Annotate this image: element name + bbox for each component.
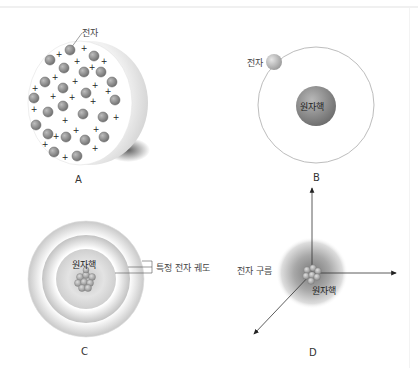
svg-text:+: + [92, 81, 99, 90]
svg-text:+: + [42, 140, 49, 149]
svg-text:+: + [92, 144, 99, 153]
svg-text:+: + [90, 97, 97, 106]
svg-text:+: + [56, 50, 63, 59]
electron [266, 54, 282, 70]
svg-text:+: + [81, 44, 88, 53]
svg-text:+: + [105, 87, 112, 96]
svg-text:+: + [62, 116, 69, 125]
svg-text:+: + [89, 63, 96, 72]
panel-b: 전자 원자핵 B [209, 0, 418, 190]
svg-text:+: + [53, 132, 60, 141]
panel-c: 원자핵 특정 전자 궤도 C [0, 190, 209, 379]
caption-d: D [309, 347, 317, 358]
svg-text:+: + [74, 57, 81, 66]
svg-text:+: + [32, 84, 39, 93]
electron-label-b: 전자 [247, 56, 263, 69]
svg-text:+: + [50, 92, 57, 101]
svg-text:+: + [52, 73, 59, 82]
orbit-label-c: 특정 전자 궤도 [156, 261, 210, 274]
svg-text:+: + [69, 93, 76, 102]
cloud-label-d: 전자 구름 [237, 264, 272, 277]
panel-a: ++ ++ ++ ++ ++ ++ ++ ++ ++ ++ ++ 전자 A [0, 0, 209, 190]
panel-d: 전자 구름 원자핵 D [209, 180, 418, 379]
svg-text:+: + [73, 126, 80, 135]
planetary-model [209, 0, 418, 190]
svg-text:+: + [72, 77, 79, 86]
nucleus-label-b: 원자핵 [300, 100, 324, 113]
bohr-model [0, 190, 209, 379]
svg-text:+: + [31, 105, 38, 114]
nucleus-label-c: 원자핵 [72, 258, 96, 271]
caption-a: A [75, 174, 82, 185]
svg-text:+: + [93, 125, 100, 134]
plum-pudding-model: ++ ++ ++ ++ ++ ++ ++ ++ ++ ++ ++ [0, 0, 209, 190]
svg-text:+: + [113, 113, 120, 122]
electron-label-a: 전자 [82, 26, 98, 39]
caption-c: C [81, 346, 88, 357]
svg-text:+: + [101, 57, 108, 66]
svg-text:+: + [62, 153, 69, 162]
nucleus-label-d: 원자핵 [312, 284, 336, 297]
